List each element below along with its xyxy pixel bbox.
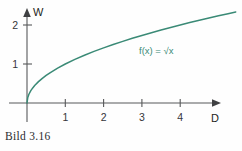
function-curve [27,12,236,103]
x-tick-label-4: 4 [177,111,183,123]
figure-caption: Bild 3.16 [5,130,51,142]
y-tick-label-1: 1 [12,58,18,70]
function-label: f(x) = √x [139,45,174,56]
x-axis-label: D [211,112,219,124]
x-axis-arrow-icon [212,99,221,107]
sqrt-function-graph: 1 2 3 4 1 2 W D f(x) = √x [0,0,242,151]
y-axis-label: W [33,6,44,18]
x-tick-label-2: 2 [101,111,107,123]
x-tick-label-3: 3 [139,111,145,123]
y-axis-arrow-icon [23,8,31,17]
y-tick-label-2: 2 [12,19,18,31]
x-tick-label-1: 1 [62,111,68,123]
